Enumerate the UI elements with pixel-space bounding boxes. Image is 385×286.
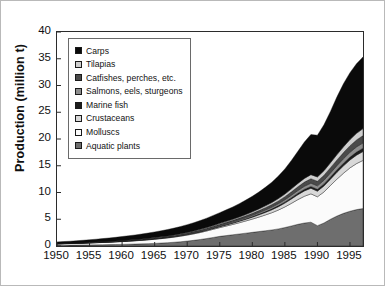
- legend-item-label: Molluscs: [86, 128, 119, 137]
- legend-swatch-icon: [75, 61, 82, 68]
- legend-swatch-icon: [75, 102, 82, 109]
- x-tick-label: 1995: [329, 249, 369, 261]
- legend-item: Tilapias: [75, 58, 183, 72]
- y-tick-label: 10: [21, 186, 51, 198]
- legend-item: Marine fish: [75, 98, 183, 112]
- y-tick-label: 5: [21, 212, 51, 224]
- legend-swatch-icon: [75, 115, 82, 122]
- legend-swatch-icon: [75, 129, 82, 136]
- y-tick-label: 25: [21, 105, 51, 117]
- y-tick-label: 15: [21, 159, 51, 171]
- legend-item-label: Crustaceans: [86, 114, 134, 123]
- y-tick-label: 20: [21, 132, 51, 144]
- legend-item: Carps: [75, 44, 183, 58]
- legend-item-label: Carps: [86, 47, 109, 56]
- legend-item: Molluscs: [75, 126, 183, 140]
- legend-swatch-icon: [75, 88, 82, 95]
- legend-item: Catfishes, perches, etc.: [75, 71, 183, 85]
- x-axis-tick-labels: 1950195519601965197019751980198519901995: [1, 249, 385, 267]
- y-tick-label: 35: [21, 52, 51, 64]
- legend-item-label: Salmons, eels, sturgeons: [86, 87, 183, 96]
- figure-container: Production (million t) 0510152025303540 …: [0, 0, 385, 286]
- legend-swatch-icon: [75, 47, 82, 54]
- legend-item: Aquatic plants: [75, 139, 183, 153]
- legend-item-label: Aquatic plants: [86, 142, 140, 151]
- legend-swatch-icon: [75, 74, 82, 81]
- legend-item-label: Marine fish: [86, 101, 128, 110]
- chart-figure: Production (million t) 0510152025303540 …: [1, 1, 385, 286]
- legend: CarpsTilapiasCatfishes, perches, etc.Sal…: [68, 38, 191, 159]
- legend-item: Salmons, eels, sturgeons: [75, 85, 183, 99]
- legend-item-label: Tilapias: [86, 60, 115, 69]
- legend-item: Crustaceans: [75, 112, 183, 126]
- y-tick-label: 30: [21, 79, 51, 91]
- y-axis-tick-labels: 0510152025303540: [19, 1, 51, 286]
- legend-swatch-icon: [75, 142, 82, 149]
- plot-area: CarpsTilapiasCatfishes, perches, etc.Sal…: [56, 31, 364, 247]
- y-tick-label: 40: [21, 25, 51, 37]
- legend-item-label: Catfishes, perches, etc.: [86, 74, 176, 83]
